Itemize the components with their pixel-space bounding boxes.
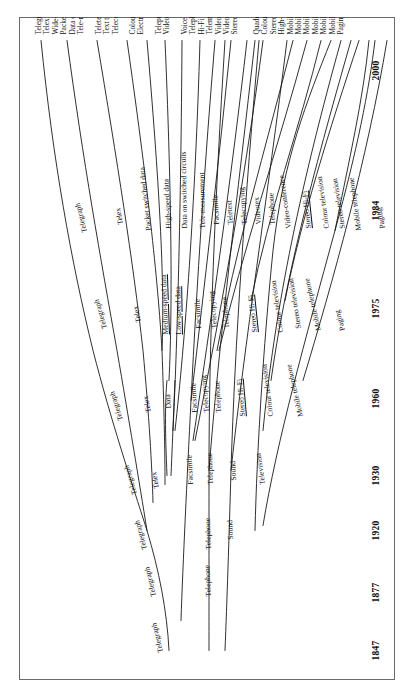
branch-label: Facsimile: [193, 298, 202, 328]
branch-label: Telephone: [267, 192, 276, 224]
terminal-group-telephony: Voice telecopying Telephone Hi-Fi teleph…: [181, 17, 240, 34]
terminal-group-text-telecopy: Teletext Text telecopying Telecopying: [95, 17, 120, 34]
branch-label: Telephone: [204, 517, 213, 549]
axis-year-2000: 2000: [371, 60, 381, 80]
terminal-item: Electronic mail: [137, 17, 145, 34]
terminal-item: Stereo Hi-Fi: [231, 17, 239, 34]
terminal-item: Tele-measurement: [77, 17, 85, 34]
terminal-group-newspaper-videotex: Teleprinting of newspapers Videotex: [155, 17, 172, 34]
branch-label: Medium-speed data: [160, 274, 170, 334]
terminal-group-colour-telecopy: Colour telecopying Electronic mail: [129, 17, 146, 34]
terminal-group-broadcast-mobile: Quadrophony Colour television Stereo tel…: [253, 17, 345, 34]
axis-year-1847: 1847: [371, 640, 381, 660]
branch-label: Facsimile: [185, 454, 194, 484]
branch-label: Telephone: [203, 564, 212, 596]
branch-label: Sound: [226, 519, 235, 539]
branch-label: Telephone: [221, 296, 231, 328]
branch-label: Telephone: [206, 452, 215, 484]
terminal-item: Paging: [337, 17, 345, 34]
branch-label: Tele-measurement: [198, 172, 207, 228]
rotated-figure-viewport: 1847 1877 1920 1930 1960 1975 1984 2000 …: [19, 17, 395, 680]
branch-label: Sound: [229, 460, 238, 480]
terminal-item: Videotex: [163, 17, 171, 34]
branch-label: Data: [164, 393, 173, 408]
axis-year-1877: 1877: [371, 582, 381, 602]
branch-label: Teletext: [225, 199, 234, 224]
figure-root: 1847 1877 1920 1930 1960 1975 1984 2000 …: [0, 0, 414, 697]
terminal-group-telegraph-data: Telegraph Telex Wide-band data Packet sw…: [35, 17, 85, 34]
axis-year-1975: 1975: [371, 298, 381, 318]
axis-year-1930: 1930: [371, 465, 381, 485]
branch-label: Telephone: [213, 380, 222, 412]
branch-label: Facsimile: [211, 194, 220, 224]
terminal-item: Telecopying: [112, 17, 120, 34]
axis-year-1960: 1960: [371, 388, 381, 408]
axis-year-1920: 1920: [371, 520, 381, 540]
branch-label: Data on switched circuits: [180, 151, 189, 228]
branch-label: Low-speed data: [174, 286, 182, 334]
diagram-canvas: 1847 1877 1920 1930 1960 1975 1984 2000 …: [19, 17, 395, 680]
branch-label: Facsimile: [189, 382, 198, 412]
